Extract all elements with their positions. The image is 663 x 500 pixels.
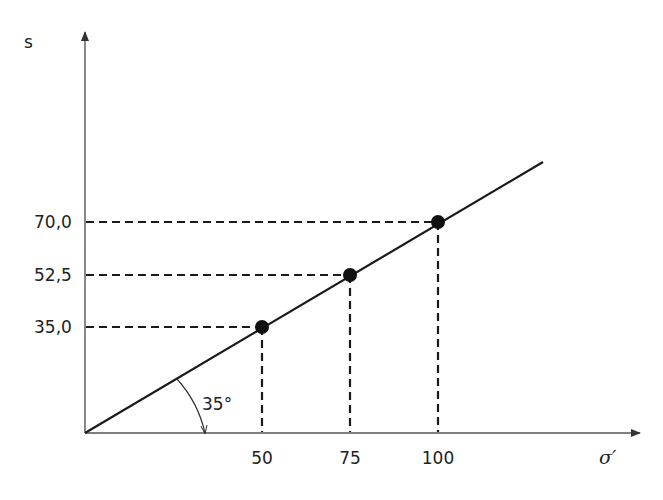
angle-label: 35° bbox=[202, 394, 232, 414]
x-tick-label: 75 bbox=[339, 448, 361, 468]
x-axis-title: σ′ bbox=[599, 446, 617, 468]
angle-arc bbox=[177, 379, 205, 433]
y-axis-title: s bbox=[24, 32, 33, 52]
y-tick-label: 70,0 bbox=[34, 212, 72, 232]
x-tick-label: 100 bbox=[422, 448, 454, 468]
y-tick-label: 35,0 bbox=[34, 317, 72, 337]
y-tick-label: 52,5 bbox=[34, 265, 72, 285]
data-point bbox=[343, 268, 357, 282]
x-tick-label: 50 bbox=[251, 448, 273, 468]
envelope-line bbox=[85, 162, 543, 433]
shear-strength-chart: 35° 70,0 52,5 35,0 50 75 100 s σ′ bbox=[0, 0, 663, 500]
data-point bbox=[255, 320, 269, 334]
data-point bbox=[431, 215, 445, 229]
